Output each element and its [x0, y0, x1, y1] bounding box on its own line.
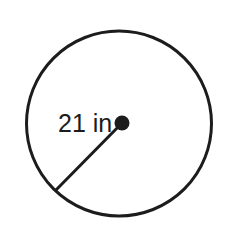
circle-diagram-canvas: 21 in [0, 0, 231, 233]
figure-background [0, 0, 231, 233]
radius-label: 21 in [58, 109, 112, 137]
circle-diagram-figure: 21 in [0, 0, 231, 233]
center-point-dot [115, 116, 130, 131]
